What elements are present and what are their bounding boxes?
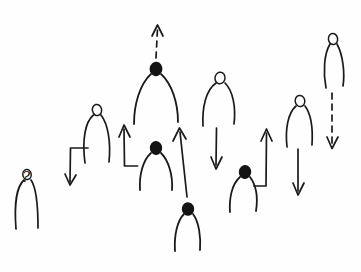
figure-6-left-leg <box>175 214 184 251</box>
arrow-elbow-up-left <box>119 125 138 166</box>
arrow-elbow-up-left-shaft <box>124 129 138 166</box>
arrow-straight-down <box>211 128 222 169</box>
arrow-dashed-up <box>152 25 163 58</box>
arrow-dashed-down <box>327 93 338 149</box>
figure-4-group <box>119 125 172 190</box>
figure-4-left-leg <box>140 153 151 190</box>
arrow-dashed-up-shaft <box>156 29 158 58</box>
arrow-straight-down-shaft <box>216 128 217 165</box>
figure-8-left-leg <box>286 106 296 147</box>
arrow-straight-down-2 <box>293 149 304 195</box>
figure-6-right-leg <box>193 214 200 250</box>
figure-4-right-leg <box>161 153 172 190</box>
figure-7-right-leg <box>250 177 257 211</box>
figure-2-left-leg <box>84 115 94 163</box>
figure-7-left-leg <box>230 177 240 212</box>
figure-7-head-filled-icon <box>239 165 251 178</box>
figure-8-right-leg <box>305 106 312 145</box>
arrow-elbow-down-left-shaft <box>70 148 88 182</box>
figure-6-group <box>173 128 200 251</box>
figure-1-left-leg <box>15 180 24 229</box>
figure-1-group: ? <box>15 168 38 229</box>
arrow-long-slanted-up <box>173 128 187 197</box>
sketch-drawing: ? <box>0 0 361 272</box>
figure-3-group <box>134 25 178 124</box>
figure-5-left-leg <box>203 83 216 126</box>
sketch-canvas: ? <box>0 0 361 272</box>
figure-9-right-leg <box>337 44 344 86</box>
figure-3-left-leg <box>134 74 151 124</box>
figure-5-group <box>203 72 235 169</box>
figure-3-right-leg <box>161 74 178 122</box>
figure-4-head-filled-icon <box>150 141 162 154</box>
figure-7-group <box>230 129 272 212</box>
figure-2-right-leg <box>101 115 110 162</box>
figure-8-group <box>286 95 312 195</box>
figure-9-left-leg <box>324 44 330 88</box>
arrow-long-slanted-up-shaft <box>180 132 187 197</box>
arrow-elbow-up-right <box>254 129 272 186</box>
figure-1-right-leg <box>31 180 38 228</box>
figure-9-group <box>324 33 343 149</box>
figure-5-right-leg <box>225 83 235 124</box>
figure-2-group <box>65 104 110 185</box>
